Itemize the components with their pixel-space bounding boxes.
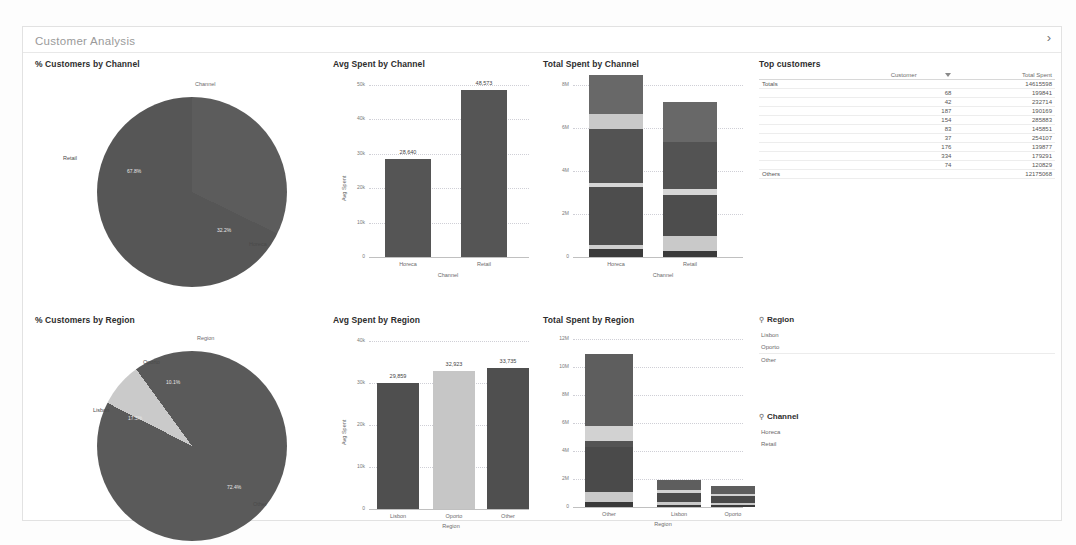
sort-indicator-cell[interactable]	[931, 71, 955, 80]
bar-oporto[interactable]	[433, 371, 475, 509]
stack-segment[interactable]	[585, 441, 633, 447]
y-tick-label: 40k	[343, 115, 365, 121]
bar-retail[interactable]	[461, 90, 507, 257]
stack-segment[interactable]	[711, 486, 755, 494]
bar-value-retail: 48,573	[449, 80, 519, 86]
table-row[interactable]: 154 285883	[759, 116, 1055, 125]
panel-filters: ⚲Region Lisbon Oporto Other ⚲Channel Hor…	[759, 315, 1055, 521]
table-row[interactable]: 74 120829	[759, 161, 1055, 170]
stack-segment[interactable]	[663, 102, 717, 142]
bar-other[interactable]	[487, 368, 529, 509]
filter-channel-label: Channel	[767, 412, 799, 421]
y-tick-label: 8M	[547, 391, 569, 397]
table-row[interactable]: 176 139877	[759, 143, 1055, 152]
x-tick-label: Other	[478, 513, 538, 519]
filter-item-oporto[interactable]: Oporto	[759, 341, 1055, 353]
stack-segment[interactable]	[663, 142, 717, 189]
pie-slices[interactable]	[97, 97, 287, 287]
stack-segment[interactable]	[589, 129, 643, 183]
panel-avg-spent-by-channel: Avg Spent by Channel Avg Spent 50k 40k 3…	[333, 59, 538, 289]
filter-item-horeca[interactable]: Horeca	[759, 426, 1055, 438]
chart-total-spent-by-channel[interactable]: 8M 6M 4M 2M 0	[543, 71, 753, 283]
totals-label: Totals	[759, 80, 954, 89]
pie-slices[interactable]	[97, 351, 287, 541]
table-header-row: Customer Total Spent	[759, 71, 1055, 80]
top-customers-table[interactable]: Customer Total Spent Totals 14615598	[759, 71, 1055, 179]
stack-segment[interactable]	[585, 492, 633, 502]
filter-item-other[interactable]: Other	[759, 354, 1055, 366]
stack-segment[interactable]	[585, 354, 633, 426]
table-row-others: Others 12175068	[759, 170, 1055, 179]
y-tick-label: 10M	[547, 363, 569, 369]
stack-segment[interactable]	[585, 426, 633, 441]
stack-segment[interactable]	[589, 114, 643, 129]
chart-total-spent-by-region[interactable]: 12M 10M 8M 6M 4M 2M 0	[543, 327, 753, 519]
stack-segment[interactable]	[585, 502, 633, 507]
chart-avg-spent-by-channel[interactable]: Avg Spent 50k 40k 30k 20k 10k 0	[333, 71, 538, 283]
y-tick-label: 12M	[547, 335, 569, 341]
panel-title: Total Spent by Region	[543, 315, 753, 325]
totals-value: 14615598	[954, 80, 1055, 89]
panel-title: Total Spent by Channel	[543, 59, 753, 69]
stack-segment[interactable]	[663, 195, 717, 236]
table-row[interactable]: 334 179291	[759, 152, 1055, 161]
table-row[interactable]: 187 190169	[759, 107, 1055, 116]
filter-item-retail[interactable]: Retail	[759, 438, 1055, 450]
stack-segment[interactable]	[657, 480, 701, 490]
stack-segment[interactable]	[657, 502, 701, 505]
x-axis-title: Channel	[408, 272, 488, 278]
cell-customer: 42	[759, 98, 954, 107]
cell-customer: 154	[759, 116, 954, 125]
chevron-right-icon[interactable]: ›	[1047, 31, 1051, 45]
filter-region-title: ⚲Region	[759, 315, 1055, 324]
axis-line-x	[369, 509, 529, 510]
stack-segment[interactable]	[657, 505, 701, 507]
stack-segment[interactable]	[589, 75, 643, 114]
x-tick-label: Lisbon	[649, 511, 709, 517]
search-icon[interactable]: ⚲	[759, 316, 764, 324]
pie-value-oporto: 10.1%	[166, 379, 180, 385]
stack-segment[interactable]	[585, 447, 633, 492]
stack-segment[interactable]	[589, 187, 643, 245]
cell-customer: 187	[759, 107, 954, 116]
y-tick-label: 0	[547, 253, 569, 259]
search-icon[interactable]: ⚲	[759, 413, 764, 421]
stack-segment[interactable]	[657, 490, 701, 493]
others-label: Others	[759, 170, 954, 179]
dashboard-header: Customer Analysis ›	[23, 27, 1061, 53]
chart-pct-customers-by-region[interactable]: Region Oporto 10.1% Lisbon 17.5% Other 7…	[35, 327, 335, 533]
chart-pct-customers-by-channel[interactable]: Channel Retail 67.8% Horeca 32.2%	[35, 71, 335, 301]
stack-segment[interactable]	[711, 496, 755, 503]
stack-segment[interactable]	[663, 236, 717, 251]
chart-avg-spent-by-region[interactable]: Avg Spent 40k 30k 20k 10k 0 29,859 32,	[333, 327, 538, 519]
stack-segment[interactable]	[711, 503, 755, 505]
filter-region: ⚲Region Lisbon Oporto Other	[759, 315, 1055, 366]
table-row[interactable]: 37 254107	[759, 134, 1055, 143]
stack-segment[interactable]	[663, 189, 717, 195]
y-tick-label: 0	[343, 505, 365, 511]
pie-value-lisbon: 17.5%	[128, 415, 142, 421]
bar-horeca[interactable]	[385, 159, 431, 257]
stack-segment[interactable]	[589, 249, 643, 257]
pie-label-other: Other	[253, 501, 267, 507]
x-axis-title: Region	[411, 523, 491, 529]
stack-segment[interactable]	[657, 493, 701, 502]
stack-segment[interactable]	[589, 183, 643, 187]
y-tick-label: 4M	[547, 167, 569, 173]
stack-segment[interactable]	[711, 505, 755, 507]
column-header-total-spent[interactable]: Total Spent	[954, 71, 1055, 80]
table-row[interactable]: 68 199841	[759, 89, 1055, 98]
page-title: Customer Analysis	[35, 35, 135, 47]
x-tick-label: Lisbon	[368, 513, 428, 519]
column-header-customer[interactable]: Customer	[759, 71, 931, 80]
cell-total-spent: 232714	[954, 98, 1055, 107]
stack-segment[interactable]	[589, 245, 643, 249]
stack-segment[interactable]	[711, 494, 755, 496]
table-row[interactable]: 42 232714	[759, 98, 1055, 107]
stack-segment[interactable]	[663, 251, 717, 257]
x-tick-label: Oporto	[424, 513, 484, 519]
filter-item-lisbon[interactable]: Lisbon	[759, 329, 1055, 341]
table-row[interactable]: 83 145851	[759, 125, 1055, 134]
gridline	[573, 339, 743, 340]
bar-lisbon[interactable]	[377, 383, 419, 509]
